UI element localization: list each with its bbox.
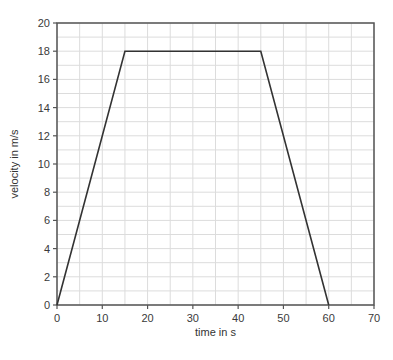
y-tick-label: 20 bbox=[38, 17, 50, 29]
y-axis-label: velocity in m/s bbox=[8, 129, 20, 199]
x-axis-label: time in s bbox=[195, 326, 236, 338]
y-tick-label: 16 bbox=[38, 73, 50, 85]
x-tick-label: 50 bbox=[277, 312, 289, 324]
y-tick-label: 2 bbox=[44, 271, 50, 283]
x-tick-label: 20 bbox=[141, 312, 153, 324]
y-axis-tick-labels: 02468101214161820 bbox=[38, 17, 50, 311]
velocity-time-chart: 010203040506070 02468101214161820 time i… bbox=[0, 0, 393, 360]
x-tick-label: 10 bbox=[96, 312, 108, 324]
x-axis-tick-labels: 010203040506070 bbox=[54, 312, 380, 324]
x-tick-label: 30 bbox=[187, 312, 199, 324]
x-tick-label: 70 bbox=[368, 312, 380, 324]
y-tick-label: 12 bbox=[38, 130, 50, 142]
y-tick-label: 8 bbox=[44, 186, 50, 198]
y-tick-label: 14 bbox=[38, 102, 50, 114]
y-tick-label: 10 bbox=[38, 158, 50, 170]
y-tick-label: 18 bbox=[38, 45, 50, 57]
x-tick-label: 40 bbox=[232, 312, 244, 324]
y-tick-label: 6 bbox=[44, 214, 50, 226]
y-tick-label: 0 bbox=[44, 299, 50, 311]
axis-ticks bbox=[53, 23, 374, 309]
x-tick-label: 0 bbox=[54, 312, 60, 324]
y-tick-label: 4 bbox=[44, 243, 50, 255]
grid bbox=[57, 23, 374, 305]
x-tick-label: 60 bbox=[323, 312, 335, 324]
